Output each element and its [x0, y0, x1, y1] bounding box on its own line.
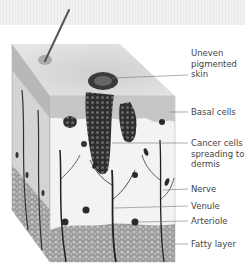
skin-block-illustration [0, 0, 245, 269]
label-basal-cells: Basal cells [191, 107, 236, 118]
label-uneven-pigmented-skin: Uneven pigmented skin [191, 48, 237, 80]
label-fatty-layer: Fatty layer [191, 239, 236, 250]
label-venule: Venule [191, 201, 220, 212]
label-arteriole: Arteriole [191, 216, 228, 227]
label-cancer-cells: Cancer cells spreading to dermis [191, 138, 244, 170]
block-front-face [50, 92, 175, 262]
label-nerve: Nerve [191, 184, 216, 195]
